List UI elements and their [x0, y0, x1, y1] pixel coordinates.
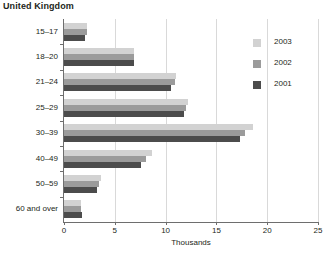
bar-2001 [64, 187, 97, 193]
bar-2001 [64, 35, 85, 41]
x-axis-tick-label: 15 [204, 226, 228, 235]
category-label: 25–29 [0, 103, 58, 112]
x-axis-tick-label: 10 [154, 226, 178, 235]
legend-label: 2002 [274, 58, 292, 67]
y-axis-tick [60, 146, 64, 147]
bar-group [64, 124, 318, 142]
x-axis-tick-label: 25 [306, 226, 327, 235]
category-axis-labels: 15–1718–2021–2425–2930–3940–4950–5960 an… [0, 0, 58, 253]
x-axis-tick [166, 222, 167, 225]
category-label: 15–17 [0, 27, 58, 36]
y-axis-tick [60, 121, 64, 122]
y-axis-tick [60, 70, 64, 71]
y-axis-tick [60, 171, 64, 172]
x-axis-tick [115, 222, 116, 225]
x-axis-tick [64, 222, 65, 225]
category-label: 50–59 [0, 179, 58, 188]
legend-label: 2003 [274, 37, 292, 46]
category-label: 60 and over [0, 204, 58, 213]
gridline [318, 19, 319, 222]
x-axis-tick [216, 222, 217, 225]
legend-label: 2001 [274, 79, 292, 88]
y-axis-tick [60, 95, 64, 96]
y-axis-tick [60, 197, 64, 198]
bar-chart: United Kingdom 15–1718–2021–2425–2930–39… [0, 0, 327, 253]
legend-swatch-icon [253, 39, 261, 47]
bar-2001 [64, 162, 141, 168]
bar-2001 [64, 60, 134, 66]
bar-2001 [64, 136, 240, 142]
bar-2001 [64, 111, 184, 117]
y-axis-tick [60, 44, 64, 45]
bar-group [64, 175, 318, 193]
x-axis-tick [318, 222, 319, 225]
x-axis-tick-label: 0 [52, 226, 76, 235]
legend-swatch-icon [253, 81, 261, 89]
category-label: 40–49 [0, 154, 58, 163]
x-axis-tick [267, 222, 268, 225]
bar-group [64, 200, 318, 218]
plot-area [64, 19, 318, 222]
bar-group [64, 150, 318, 168]
x-axis-tick-label: 20 [255, 226, 279, 235]
x-axis-line [64, 222, 318, 223]
legend-swatch-icon [253, 60, 261, 68]
x-axis-tick-label: 5 [103, 226, 127, 235]
category-label: 21–24 [0, 77, 58, 86]
category-label: 18–20 [0, 52, 58, 61]
category-label: 30–39 [0, 128, 58, 137]
bar-group [64, 99, 318, 117]
bar-2001 [64, 212, 82, 218]
x-axis-title: Thousands [64, 238, 318, 247]
bar-2001 [64, 85, 171, 91]
